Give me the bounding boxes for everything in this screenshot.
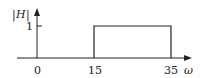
x-tick-label-0: 0: [34, 64, 41, 77]
y-axis-arrow-icon: [34, 8, 40, 16]
passband-rectangle: [94, 26, 171, 58]
y-tick-label-1: 1: [26, 20, 33, 33]
magnitude-response-diagram: | H | 1 0 15 35 ω: [0, 0, 203, 78]
y-axis-label-var: H: [15, 8, 26, 21]
x-axis-label-omega: ω: [184, 64, 193, 77]
x-tick-label-15: 15: [88, 64, 102, 77]
x-tick-label-35: 35: [164, 64, 178, 77]
x-axis-arrow-icon: [184, 55, 192, 61]
